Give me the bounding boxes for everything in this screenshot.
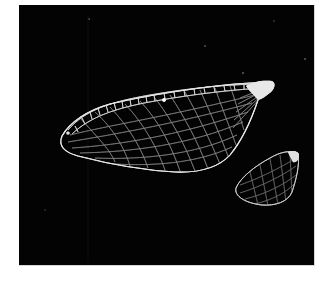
forewing [61,81,275,172]
bottom-margin [0,268,320,292]
wings-photo [19,5,314,265]
hindwing [236,151,299,206]
forewing-base [246,81,275,100]
dust-specks [44,18,306,211]
hindwing-base [288,151,299,162]
photo-frame [19,5,315,266]
